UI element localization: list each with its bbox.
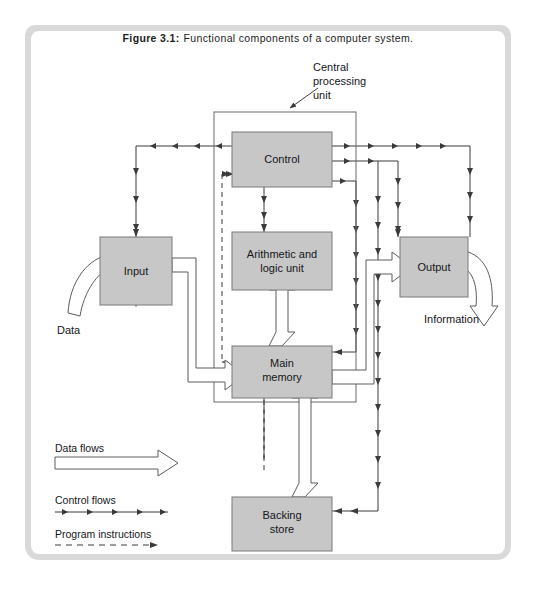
cpu-label-line-3: unit bbox=[313, 88, 403, 102]
cpu-annotation-label: Central processing unit bbox=[313, 60, 403, 102]
legend-label-program-instructions: Program instructions bbox=[55, 528, 151, 540]
legend-program-arrowhead bbox=[150, 542, 158, 548]
label-data-input: Data bbox=[57, 323, 80, 337]
figure-container: Figure 3.1: Functional components of a c… bbox=[0, 0, 536, 591]
box-backing-store bbox=[232, 497, 332, 551]
cpu-label-line-1: Central bbox=[313, 60, 403, 74]
box-control bbox=[232, 132, 332, 187]
box-input bbox=[100, 237, 172, 305]
label-information-output: Information bbox=[424, 312, 479, 326]
legend-label-data-flows: Data flows bbox=[55, 442, 104, 454]
data-arrow-memory-backing bbox=[292, 384, 318, 497]
box-main-memory bbox=[232, 346, 332, 398]
box-output bbox=[400, 237, 468, 297]
cpu-label-line-2: processing bbox=[313, 74, 403, 88]
program-instruction-flow bbox=[222, 174, 264, 470]
legend-label-control-flows: Control flows bbox=[55, 494, 116, 506]
box-alu bbox=[232, 232, 332, 290]
